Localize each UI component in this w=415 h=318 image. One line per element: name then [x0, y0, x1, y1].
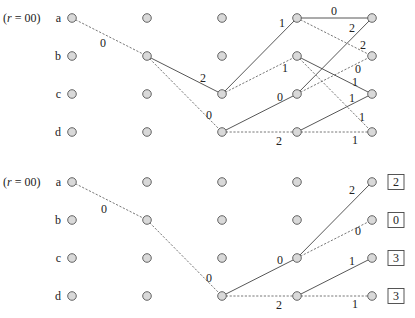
start-state-label: (r = 00) — [3, 11, 40, 25]
state-node — [68, 216, 77, 225]
state-node — [143, 128, 152, 137]
state-node — [293, 178, 302, 187]
state-node — [68, 14, 77, 23]
branch-metric-label: 0 — [277, 253, 283, 267]
branch-metric-label: 2 — [349, 183, 355, 197]
state-label-d: d — [55, 289, 61, 303]
path-metric-value: 3 — [393, 289, 399, 303]
trellis-branch — [297, 182, 372, 258]
state-node — [293, 254, 302, 263]
path-metric-value: 0 — [393, 213, 399, 227]
branch-metric-label: 1 — [352, 133, 358, 147]
state-node — [218, 14, 227, 23]
state-label-d: d — [55, 125, 61, 139]
branch-metric-label: 1 — [282, 61, 288, 75]
branch-metric-label: 0 — [355, 224, 361, 238]
state-node — [293, 216, 302, 225]
state-node — [293, 52, 302, 61]
path-metric-value: 3 — [393, 251, 399, 265]
trellis-branch — [72, 182, 147, 220]
state-node — [368, 128, 377, 137]
start-state-label: (r = 00) — [3, 175, 40, 189]
state-node — [218, 292, 227, 301]
branch-metric-label: 2 — [200, 71, 206, 85]
branch-metric-label: 1 — [349, 254, 355, 268]
state-node — [143, 90, 152, 99]
path-metric-value: 2 — [393, 175, 399, 189]
state-node — [293, 90, 302, 99]
state-node — [218, 178, 227, 187]
branch-metric-label: 0 — [206, 271, 212, 285]
nodes-layer — [68, 14, 377, 301]
trellis-branch — [147, 56, 222, 94]
state-node — [143, 14, 152, 23]
trellis-branch — [222, 94, 297, 132]
trellis-branch — [222, 18, 297, 94]
branch-metric-label: 2 — [276, 298, 282, 312]
state-node — [368, 14, 377, 23]
state-label-c: c — [56, 251, 61, 265]
state-node — [293, 292, 302, 301]
state-label-a: a — [56, 11, 62, 25]
state-node — [143, 254, 152, 263]
state-node — [143, 216, 152, 225]
state-node — [143, 292, 152, 301]
trellis-branch — [222, 258, 297, 296]
state-node — [68, 90, 77, 99]
state-node — [368, 178, 377, 187]
state-node — [143, 52, 152, 61]
state-node — [218, 52, 227, 61]
state-label-b: b — [55, 213, 61, 227]
state-node — [68, 128, 77, 137]
state-node — [218, 128, 227, 137]
branch-metric-label: 0 — [100, 36, 106, 50]
branch-metric-label: 2 — [276, 134, 282, 148]
trellis-diagram: 020110202201111abcd(r = 00)00022011abcd(… — [0, 0, 415, 318]
branch-metric-label: 1 — [349, 91, 355, 105]
labels-layer: 020110202201111abcd(r = 00)00022011abcd(… — [3, 4, 404, 312]
state-node — [368, 216, 377, 225]
state-node — [368, 90, 377, 99]
state-node — [368, 52, 377, 61]
state-node — [368, 254, 377, 263]
branch-metric-label: 0 — [277, 90, 283, 104]
branch-metric-label: 1 — [352, 75, 358, 89]
branch-metric-label: 1 — [279, 16, 285, 30]
state-node — [218, 216, 227, 225]
state-node — [293, 14, 302, 23]
state-node — [68, 292, 77, 301]
branch-metric-label: 0 — [206, 108, 212, 122]
branch-metric-label: 2 — [360, 38, 366, 52]
state-node — [368, 292, 377, 301]
trellis-branch — [72, 18, 147, 56]
state-node — [218, 254, 227, 263]
state-node — [68, 178, 77, 187]
branch-metric-label: 0 — [101, 202, 107, 216]
state-node — [218, 90, 227, 99]
state-label-a: a — [56, 175, 62, 189]
branch-metric-label: 0 — [331, 4, 337, 18]
state-node — [143, 178, 152, 187]
state-label-b: b — [55, 49, 61, 63]
branch-metric-label: 0 — [355, 62, 361, 76]
trellis-branch — [297, 18, 372, 94]
branch-metric-label: 2 — [349, 21, 355, 35]
state-label-c: c — [56, 87, 61, 101]
state-node — [68, 52, 77, 61]
trellis-branch — [297, 258, 372, 296]
state-node — [68, 254, 77, 263]
branch-metric-label: 1 — [359, 110, 365, 124]
state-node — [293, 128, 302, 137]
branch-metric-label: 1 — [352, 297, 358, 311]
